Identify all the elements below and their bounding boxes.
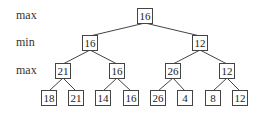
minimax-tree-diagram: max min max 16 16 12 21 16 26 12 18 21 1… [0, 0, 265, 113]
node-max-4: 12 [219, 63, 235, 79]
node-leaf-2: 21 [68, 90, 84, 106]
node-max-3: 26 [165, 63, 181, 79]
node-max-1: 21 [55, 63, 71, 79]
tree-edge [90, 23, 145, 36]
node-root: 16 [137, 8, 153, 24]
node-leaf-6: 4 [177, 90, 193, 106]
tree-edge [90, 50, 117, 64]
level-label-max-top: max [16, 8, 37, 23]
node-leaf-4: 16 [123, 90, 139, 106]
node-min-right: 12 [192, 35, 208, 51]
node-leaf-3: 14 [95, 90, 111, 106]
tree-edge [200, 50, 227, 64]
node-leaf-1: 18 [41, 90, 57, 106]
level-label-min: min [16, 35, 35, 50]
tree-edge [173, 50, 200, 64]
level-label-max-bottom: max [16, 63, 37, 78]
tree-edge [63, 50, 90, 64]
node-max-2: 16 [109, 63, 125, 79]
node-leaf-8: 12 [232, 90, 248, 106]
node-min-left: 16 [82, 35, 98, 51]
node-leaf-5: 26 [150, 90, 166, 106]
node-leaf-7: 8 [205, 90, 221, 106]
